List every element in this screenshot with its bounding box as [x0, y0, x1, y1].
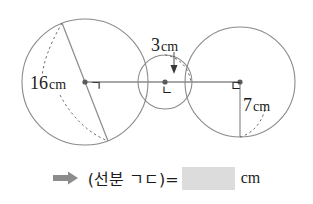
radius-label-right-circle: 7cm: [243, 96, 270, 114]
radius-unit-right: cm: [253, 99, 270, 114]
center-label-b: ㄴ: [161, 83, 173, 96]
answer-row: (선분 ㄱㄷ)= cm: [0, 158, 313, 198]
answer-unit: cm: [241, 169, 261, 187]
radius-label-middle-circle: 3cm: [151, 36, 178, 54]
worksheet-page: 16cm 3cm 7cm ㄱ ㄴ ㄷ (선분 ㄱㄷ)= cm: [0, 0, 313, 204]
answer-blank-field[interactable]: [182, 167, 235, 190]
center-label-a: ㄱ: [90, 79, 102, 92]
radius-arrow-head-middle: [171, 65, 178, 74]
right-arrow-icon: [53, 171, 79, 185]
radius-unit-middle: cm: [161, 39, 178, 54]
center-point-dot-a: [82, 79, 87, 84]
diameter-unit-left: cm: [49, 77, 66, 92]
center-label-c: ㄷ: [230, 79, 242, 92]
answer-prompt: (선분 ㄱㄷ)=: [88, 166, 179, 190]
radius-value-right: 7: [243, 95, 252, 115]
radius-value-middle: 3: [151, 35, 160, 55]
dashed-arc-left-upper: [42, 23, 62, 76]
diameter-label-left-circle: 16cm: [30, 74, 66, 92]
dashed-arc-left-lower: [60, 95, 108, 141]
diameter-value-left: 16: [30, 73, 48, 93]
